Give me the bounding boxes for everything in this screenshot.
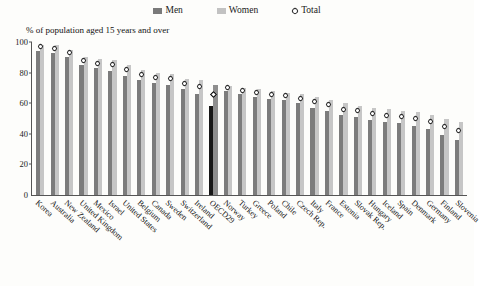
bar-women	[242, 88, 246, 195]
bar-group[interactable]	[221, 42, 235, 195]
x-axis-label: Slovenia	[453, 199, 480, 224]
x-axis-label-cell: United Kingdom	[75, 198, 89, 284]
bar-women	[199, 80, 203, 195]
bar-women	[55, 45, 59, 195]
legend-item-men[interactable]: Men	[153, 6, 182, 16]
legend-marker-total-icon	[291, 7, 299, 15]
bar-group[interactable]	[365, 42, 379, 195]
x-axis-label-cell: Turkey	[235, 198, 249, 284]
bar-women	[98, 59, 102, 195]
bar-group[interactable]	[206, 42, 220, 195]
bar-series-container	[32, 42, 467, 195]
bar-group[interactable]	[293, 42, 307, 195]
bar-women	[329, 100, 333, 195]
x-axis-label-cell: Italy	[307, 198, 321, 284]
legend-item-women[interactable]: Women	[217, 6, 258, 16]
x-axis-label-cell: Finland	[437, 198, 451, 284]
bar-women	[40, 45, 44, 195]
bar-group[interactable]	[423, 42, 437, 195]
bar-women	[271, 91, 275, 195]
bar-group[interactable]	[380, 42, 394, 195]
bar-women	[401, 111, 405, 195]
bar-group[interactable]	[307, 42, 321, 195]
x-axis-label-cell: Poland	[264, 198, 278, 284]
y-axis-title: % of population aged 15 years and over	[26, 25, 169, 35]
bar-women	[170, 74, 174, 195]
bar-group[interactable]	[264, 42, 278, 195]
plot-area: 020406080100	[31, 42, 467, 196]
x-axis-label-cell: Greece	[249, 198, 263, 284]
bar-women	[387, 109, 391, 195]
bar-group[interactable]	[177, 42, 191, 195]
bar-group[interactable]	[91, 42, 105, 195]
bar-women	[228, 86, 232, 195]
x-axis-label-cell: Estonia	[336, 198, 350, 284]
bar-group[interactable]	[278, 42, 292, 195]
bar-group[interactable]	[163, 42, 177, 195]
chart-legend: Men Women Total	[0, 6, 474, 16]
bar-women	[358, 106, 362, 195]
bar-women	[127, 65, 131, 195]
x-axis-label-cell: United States	[119, 198, 133, 284]
y-axis-tick-mark	[29, 42, 32, 43]
x-axis-label-cell: Switzerland	[177, 198, 191, 284]
bar-group[interactable]	[192, 42, 206, 195]
x-axis-label-cell: Spain	[394, 198, 408, 284]
bar-women	[185, 79, 189, 195]
bar-group[interactable]	[394, 42, 408, 195]
bar-women	[430, 115, 434, 195]
bar-women	[286, 93, 290, 196]
x-axis-label-cell: Czech Rep.	[292, 198, 306, 284]
bar-women	[213, 85, 217, 195]
x-axis-label-cell: Canada	[148, 198, 162, 284]
y-axis-tick-mark	[29, 133, 32, 134]
x-axis-label-cell: France	[321, 198, 335, 284]
x-axis-label-cell: Slovenia	[452, 198, 466, 284]
bar-group[interactable]	[47, 42, 61, 195]
bar-group[interactable]	[105, 42, 119, 195]
bar-women	[343, 103, 347, 195]
x-axis-label-cell: Israel	[104, 198, 118, 284]
bar-group[interactable]	[437, 42, 451, 195]
bar-women	[156, 73, 160, 195]
bar-group[interactable]	[250, 42, 264, 195]
y-axis-tick-mark	[29, 72, 32, 73]
x-axis-label-cell: Sweden	[162, 198, 176, 284]
bar-group[interactable]	[62, 42, 76, 195]
legend-label-women: Women	[229, 6, 258, 16]
bar-women	[141, 70, 145, 195]
bar-women	[416, 112, 420, 195]
bar-group[interactable]	[134, 42, 148, 195]
x-axis-label-cell: Australia	[46, 198, 60, 284]
x-axis-label-cell: Hungary	[365, 198, 379, 284]
bar-group[interactable]	[408, 42, 422, 195]
x-axis-label-cell: Korea	[32, 198, 46, 284]
bar-women	[372, 108, 376, 195]
x-axis-label-cell: Mexico	[90, 198, 104, 284]
bar-women	[69, 50, 73, 195]
x-axis-label-cell: Iceland	[379, 198, 393, 284]
legend-item-total[interactable]: Total	[292, 6, 320, 16]
x-axis-label-cell: Germany	[423, 198, 437, 284]
x-axis-label-cell: Chile	[278, 198, 292, 284]
x-axis-label-cell: Belgium	[133, 198, 147, 284]
x-axis-label-cell: Denmark	[408, 198, 422, 284]
bar-group[interactable]	[452, 42, 466, 195]
bar-women	[84, 57, 88, 195]
x-axis-labels: KoreaAustraliaNew ZealandUnited KingdomM…	[31, 198, 467, 284]
y-axis-tick-mark	[29, 103, 32, 104]
bar-group[interactable]	[149, 42, 163, 195]
bar-group[interactable]	[351, 42, 365, 195]
bar-group[interactable]	[235, 42, 249, 195]
legend-swatch-men-icon	[153, 8, 162, 14]
bar-group[interactable]	[76, 42, 90, 195]
bar-women	[315, 97, 319, 195]
bar-women	[257, 89, 261, 195]
bar-group[interactable]	[120, 42, 134, 195]
x-axis-label-cell: Ireland	[191, 198, 205, 284]
bar-group[interactable]	[336, 42, 350, 195]
bar-group[interactable]	[33, 42, 47, 195]
bar-women	[300, 94, 304, 195]
bar-group[interactable]	[322, 42, 336, 195]
